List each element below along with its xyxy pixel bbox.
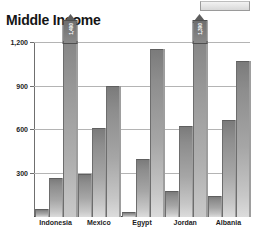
bar-mexico-series-3[interactable]	[106, 86, 119, 217]
bar-slot	[222, 42, 235, 217]
bar-groups: 1,4901,390	[34, 42, 250, 217]
bar-jordan-series-1[interactable]	[165, 191, 178, 217]
bar-slot	[106, 42, 119, 217]
bar-mexico-series-2[interactable]	[92, 128, 105, 217]
plot-area: 3006009001,200 1,4901,390	[34, 42, 250, 217]
bar-slot	[136, 42, 149, 217]
page-title: Middle Income	[6, 12, 101, 28]
bar-slot	[179, 42, 192, 217]
bar-slot	[122, 42, 135, 217]
bar-slot	[78, 42, 91, 217]
off-scale-value-label: 1,490	[67, 23, 73, 35]
bar-albania-series-2[interactable]	[222, 120, 235, 217]
toolbar-chip[interactable]	[200, 1, 250, 11]
bar-albania-series-1[interactable]	[208, 196, 221, 217]
bar-egypt-series-3[interactable]	[150, 49, 163, 217]
bar-albania-series-3[interactable]	[236, 61, 249, 217]
off-scale-value-label: 1,390	[197, 23, 203, 35]
bar-jordan-series-3[interactable]: 1,390	[193, 41, 206, 217]
x-axis-label-indonesia: Indonesia	[34, 219, 77, 226]
bar-slot	[49, 42, 62, 217]
bar-slot: 1,490	[63, 42, 76, 217]
bar-group-indonesia: 1,490	[34, 42, 77, 217]
y-tick-label-300: 300	[16, 170, 28, 177]
bar-slot	[208, 42, 221, 217]
bar-egypt-series-1[interactable]	[122, 212, 135, 217]
x-axis-label-albania: Albania	[207, 219, 250, 226]
bar-group-jordan: 1,390	[164, 42, 207, 217]
bar-slot	[236, 42, 249, 217]
y-tick-label-900: 900	[16, 83, 28, 90]
bar-slot	[92, 42, 105, 217]
bar-indonesia-series-1[interactable]	[35, 209, 48, 217]
bar-jordan-series-2[interactable]	[179, 126, 192, 217]
x-axis-label-mexico: Mexico	[77, 219, 120, 226]
bar-group-egypt	[120, 42, 163, 217]
y-tick-label-1200: 1,200	[10, 39, 28, 46]
bar-slot	[35, 42, 48, 217]
off-scale-marker-icon: 1,490	[63, 14, 78, 44]
bar-group-mexico	[77, 42, 120, 217]
bar-slot	[165, 42, 178, 217]
bar-slot	[150, 42, 163, 217]
chart-root: Middle Income 3006009001,200 1,4901,390 …	[0, 0, 254, 239]
bar-group-albania	[207, 42, 250, 217]
y-tick-label-600: 600	[16, 126, 28, 133]
x-axis-label-jordan: Jordan	[164, 219, 207, 226]
bar-indonesia-series-3[interactable]: 1,490	[63, 41, 76, 217]
bar-mexico-series-1[interactable]	[78, 174, 91, 217]
bar-slot: 1,390	[193, 42, 206, 217]
off-scale-marker-icon: 1,390	[192, 14, 207, 44]
x-axis-label-egypt: Egypt	[120, 219, 163, 226]
bar-egypt-series-2[interactable]	[136, 159, 149, 217]
bar-indonesia-series-2[interactable]	[49, 178, 62, 217]
x-axis-labels: IndonesiaMexicoEgyptJordanAlbania	[34, 219, 250, 226]
